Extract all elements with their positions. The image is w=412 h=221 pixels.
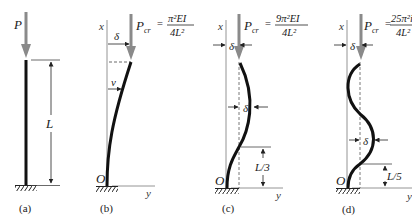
v-label: v	[111, 76, 116, 88]
delta-label: δ	[114, 30, 120, 42]
length-label: L	[45, 116, 53, 131]
pcr-label: Pcr	[363, 18, 380, 35]
load-arrow-icon	[21, 12, 31, 58]
panel-b: x y O Pcr = π²EI 4L² δ v (b)	[96, 13, 194, 215]
caption-a: (a)	[19, 202, 32, 215]
buckled-column	[227, 63, 250, 188]
equals-sign: =	[265, 18, 271, 29]
y-axis-label: y	[406, 190, 412, 202]
delta-mid-label: δ	[363, 135, 369, 147]
delta-top-label: δ	[229, 40, 235, 52]
load-arrow-icon	[234, 14, 244, 60]
pcr-label: Pcr	[243, 18, 260, 35]
segment-label: L/5	[386, 170, 402, 182]
panel-c: x y O Pcr = 9π²EI 4L² δ δ L/3 (c)	[213, 13, 308, 215]
x-axis-label: x	[338, 20, 344, 32]
formula-denominator: 4L²	[282, 27, 297, 38]
panel-d: x y O Pcr = 25π²i 4L² δ δ L/5 (d)	[334, 13, 412, 216]
formula-denominator: 4L²	[396, 27, 411, 38]
origin-label: O	[96, 171, 106, 186]
fixed-support	[336, 189, 360, 194]
caption-b: (b)	[100, 202, 113, 215]
formula-numerator: π²EI	[168, 13, 187, 24]
formula-numerator: 25π²i	[391, 13, 412, 24]
panel-a: P L (a)	[13, 12, 60, 215]
origin-label: O	[336, 173, 346, 188]
fixed-support	[215, 189, 239, 194]
caption-d: (d)	[342, 203, 355, 216]
y-axis-label: y	[275, 189, 281, 201]
segment-label: L/3	[254, 161, 270, 173]
x-axis-label: x	[217, 20, 223, 32]
caption-c: (c)	[222, 202, 235, 215]
column-buckling-figure: P L (a) x y O Pcr = π²EI 4L² δ	[0, 0, 412, 221]
pcr-label: Pcr	[135, 18, 152, 35]
origin-label: O	[215, 173, 225, 188]
load-arrow-icon	[126, 14, 136, 60]
delta-top-label: δ	[350, 40, 356, 52]
y-axis-label: y	[145, 187, 151, 199]
formula-numerator: 9π²EI	[276, 13, 300, 24]
buckled-column	[348, 64, 374, 188]
fixed-support	[96, 187, 118, 192]
formula-denominator: 4L²	[170, 27, 185, 38]
equals-sign: =	[157, 18, 163, 29]
load-label: P	[13, 17, 22, 32]
fixed-support	[15, 186, 37, 191]
x-axis-label: x	[98, 20, 104, 32]
delta-mid-label: δ	[243, 102, 249, 114]
